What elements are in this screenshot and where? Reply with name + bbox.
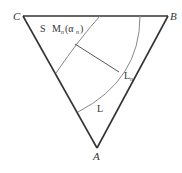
label-alpha-close: ) [80, 23, 83, 35]
label-s: S [40, 23, 46, 34]
label-a: A [92, 150, 100, 162]
label-l: L [97, 103, 103, 114]
label-m: M [52, 23, 61, 34]
label-ln-sub: n [130, 76, 133, 82]
label-alpha-sub: n [76, 29, 79, 35]
segment-ln [75, 44, 119, 72]
triangle-diagram: C B A S M n (α n ) L n L [0, 0, 182, 173]
edge-ca [23, 16, 97, 148]
label-alpha: (α [65, 23, 74, 35]
label-b: B [170, 10, 177, 22]
label-m-sub: n [61, 29, 64, 35]
edge-ba [97, 16, 168, 148]
label-c: C [13, 10, 21, 22]
curve-mn [56, 16, 100, 73]
